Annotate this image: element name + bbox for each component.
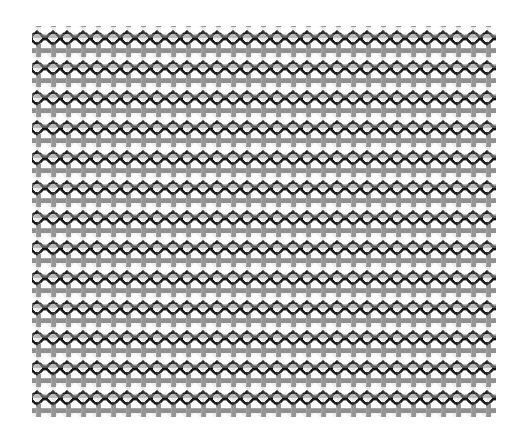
- warp-thread: [472, 26, 476, 417]
- warp-thread: [322, 26, 326, 417]
- warp-thread: [187, 26, 191, 417]
- warp-thread: [112, 26, 116, 417]
- warp-thread: [427, 26, 431, 417]
- warp-thread: [382, 26, 386, 417]
- warp-thread: [352, 26, 356, 417]
- warp-thread: [367, 26, 371, 417]
- warp-thread: [412, 26, 416, 417]
- warp-thread: [97, 26, 101, 417]
- warp-thread: [247, 26, 251, 417]
- warp-thread: [292, 26, 296, 417]
- warp-thread: [337, 26, 341, 417]
- mesh-texture-image: [0, 0, 520, 440]
- warp-thread: [232, 26, 236, 417]
- warp-thread: [277, 26, 281, 417]
- warp-thread: [127, 26, 131, 417]
- warp-thread: [202, 26, 206, 417]
- warp-thread: [397, 26, 401, 417]
- warp-thread: [142, 26, 146, 417]
- warp-thread: [442, 26, 446, 417]
- warp-thread: [487, 26, 491, 417]
- warp-thread: [52, 26, 56, 417]
- texture-canvas: [0, 0, 520, 440]
- warp-thread: [157, 26, 161, 417]
- warp-thread: [67, 26, 71, 417]
- warp-thread: [172, 26, 176, 417]
- warp-thread: [217, 26, 221, 417]
- warp-thread: [37, 26, 41, 417]
- warp-thread: [307, 26, 311, 417]
- warp-thread: [457, 26, 461, 417]
- warp-thread: [262, 26, 266, 417]
- warp-thread: [82, 26, 86, 417]
